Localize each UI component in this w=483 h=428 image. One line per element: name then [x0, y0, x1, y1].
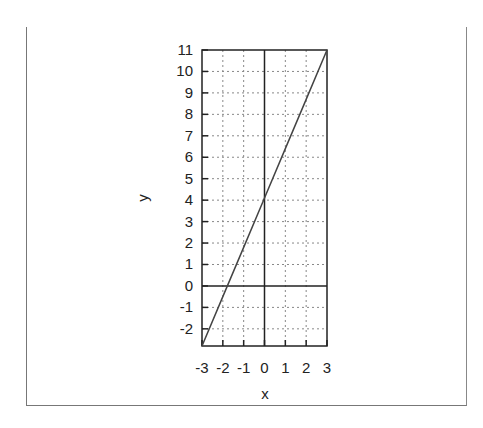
- x-tick-label: -3: [195, 359, 208, 376]
- y-tick-label: 4: [185, 191, 193, 208]
- x-tick-label: 0: [260, 359, 268, 376]
- y-tick-label: 1: [185, 255, 193, 272]
- y-tick-label: 0: [185, 277, 193, 294]
- x-tick-label: -2: [216, 359, 229, 376]
- y-tick-label: 10: [176, 62, 193, 79]
- y-tick-label: 9: [185, 84, 193, 101]
- y-tick-label: 2: [185, 234, 193, 251]
- x-tick-label: 1: [281, 359, 289, 376]
- y-tick-label: 11: [177, 41, 193, 58]
- y-tick-label: 8: [185, 105, 193, 122]
- y-axis-label: y: [134, 194, 151, 202]
- line-chart: -3-2-10123-2-101234567891011xy: [0, 0, 483, 428]
- y-tick-label: 6: [185, 148, 193, 165]
- y-tick-label: 5: [185, 170, 193, 187]
- x-tick-label: 2: [302, 359, 310, 376]
- x-axis-label: x: [261, 385, 269, 402]
- x-tick-label: 3: [323, 359, 331, 376]
- y-tick-label: -2: [180, 320, 193, 337]
- y-tick-label: -1: [180, 298, 193, 315]
- y-tick-label: 3: [185, 213, 193, 230]
- x-tick-label: -1: [237, 359, 250, 376]
- y-tick-label: 7: [185, 127, 193, 144]
